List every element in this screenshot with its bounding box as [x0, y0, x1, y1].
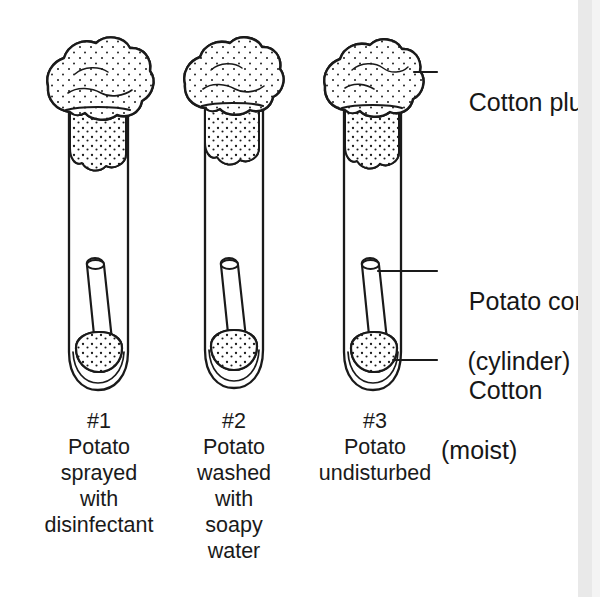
caption-tube-2: #2 Potato washed with soapy water [170, 408, 298, 564]
page-edge-shadow-outer [592, 0, 600, 597]
caption-line: Potato [170, 434, 298, 460]
caption-line: #1 [20, 408, 178, 434]
caption-line: #2 [170, 408, 298, 434]
callout-cotton-moist: Cotton (moist) [441, 345, 542, 525]
caption-line: washed [170, 460, 298, 486]
caption-line: Potato [20, 434, 178, 460]
callout-cotton-moist-sub: (moist) [441, 435, 542, 465]
caption-tube-1: #1 Potato sprayed with disinfectant [20, 408, 178, 538]
callout-cotton-plug: Cotton plug [441, 57, 597, 147]
caption-line: with [20, 486, 178, 512]
caption-line: sprayed [20, 460, 178, 486]
caption-line: Potato [297, 434, 453, 460]
test-tube-3 [321, 34, 425, 390]
caption-line: water [170, 538, 298, 564]
figure-root: Cotton plug Potato core (cylinder) Cotto… [0, 0, 600, 597]
test-tube-2 [181, 32, 285, 388]
callout-cotton-moist-text: Cotton [469, 376, 543, 404]
caption-line: #3 [297, 408, 453, 434]
test-tube-1 [44, 34, 160, 390]
page-edge-shadow [578, 0, 592, 597]
caption-tube-3: #3 Potato undisturbed [297, 408, 453, 486]
caption-line: disinfectant [20, 512, 178, 538]
caption-line: soapy [170, 512, 298, 538]
caption-line: with [170, 486, 298, 512]
caption-line: undisturbed [297, 460, 453, 486]
